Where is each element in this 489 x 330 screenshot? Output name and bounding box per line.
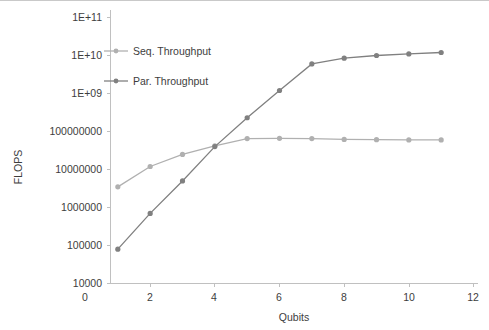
legend-item-seq-throughput[interactable]: Seq. Throughput [104,45,211,57]
y-tick-label: 10000000 [55,163,102,175]
y-tick-label: 1E+09 [71,87,102,99]
legend-marker-icon [114,49,119,54]
legend-item-par-throughput[interactable]: Par. Throughput [104,75,208,87]
y-tick-label: 1E+11 [72,11,102,23]
y-tick-labels: 1E+11 1E+10 1E+09 100000000 10000000 100… [49,11,102,289]
data-point[interactable] [342,137,347,142]
x-tick-label: 12 [467,291,479,303]
x-tick-label: 2 [147,291,153,303]
data-point[interactable] [406,51,411,56]
data-point[interactable] [148,164,153,169]
data-point[interactable] [439,137,444,142]
x-tick-labels: 0 2 4 6 8 10 12 [82,291,479,303]
data-point[interactable] [277,88,282,93]
data-point[interactable] [180,178,185,183]
data-point[interactable] [148,211,153,216]
legend-marker-icon [114,79,119,84]
data-point[interactable] [374,137,379,142]
series-line [118,138,441,186]
data-point[interactable] [180,152,185,157]
data-point[interactable] [277,136,282,141]
y-tick-label: 1000000 [61,201,102,213]
data-point[interactable] [342,56,347,61]
data-point[interactable] [115,184,120,189]
x-tick-label: 6 [276,291,282,303]
x-tick-label: 8 [341,291,347,303]
data-point[interactable] [309,136,314,141]
y-tick-marks [107,18,111,284]
x-tick-marks [86,284,474,288]
data-point[interactable] [439,50,444,55]
data-point[interactable] [374,53,379,58]
line-chart-plot: 1E+11 1E+10 1E+09 100000000 10000000 100… [0,0,489,330]
x-tick-label: 4 [211,291,217,303]
legend-label: Seq. Throughput [133,45,211,57]
data-point[interactable] [245,136,250,141]
series-seq-throughput [115,136,444,190]
data-point[interactable] [309,61,314,66]
y-tick-label: 100000 [67,239,102,251]
data-point[interactable] [115,247,120,252]
data-point[interactable] [245,115,250,120]
x-axis-title: Qubits [279,311,309,323]
chart-container: 1E+11 1E+10 1E+09 100000000 10000000 100… [0,0,489,330]
data-point[interactable] [406,137,411,142]
data-point[interactable] [212,144,217,149]
y-axis-title: FLOPS [12,150,24,184]
legend-label: Par. Throughput [133,75,208,87]
chart-legend: Seq. Throughput Par. Throughput [104,45,211,87]
x-tick-label: 10 [403,291,415,303]
x-tick-label: 0 [82,291,88,303]
y-tick-label: 1E+10 [71,49,102,61]
y-tick-label: 100000000 [49,125,102,137]
y-tick-label: 10000 [73,277,102,289]
